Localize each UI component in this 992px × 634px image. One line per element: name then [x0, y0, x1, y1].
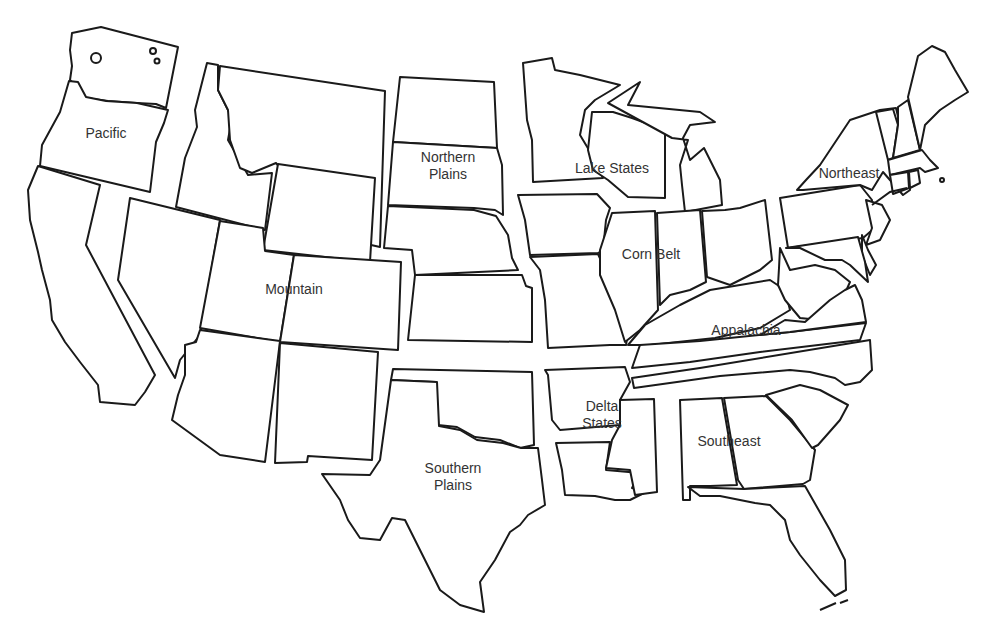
region-label-line: Mountain: [265, 281, 323, 297]
region-label-delta-states: DeltaStates: [582, 398, 622, 431]
state-me: [908, 46, 968, 150]
region-label-line: States: [582, 415, 622, 431]
region-label-corn-belt: Corn Belt: [622, 246, 680, 262]
region-label-line: Lake States: [575, 160, 649, 176]
state-co: [280, 255, 401, 350]
region-label-northeast: Northeast: [819, 165, 880, 181]
state-ks: [408, 275, 532, 342]
state-nd: [393, 77, 497, 148]
region-label-line: Southeast: [697, 433, 760, 449]
region-label-line: Northern: [421, 149, 475, 165]
state-ri: [909, 170, 920, 188]
state-ne: [384, 206, 518, 275]
region-label-line: Corn Belt: [622, 246, 680, 262]
state-wy: [263, 164, 375, 262]
region-label-southeast: Southeast: [697, 433, 760, 449]
state-nm: [275, 343, 378, 463]
region-label-appalachia: Appalachia: [711, 322, 780, 338]
state-fl: [688, 486, 846, 596]
region-label-line: Plains: [434, 477, 472, 493]
region-label-line: Pacific: [85, 125, 126, 141]
region-label-line: Southern: [425, 460, 482, 476]
region-label-line: Plains: [429, 166, 467, 182]
states-layer: [28, 27, 968, 612]
region-label-line: Appalachia: [711, 322, 780, 338]
region-label-lake-states: Lake States: [575, 160, 649, 176]
region-label-mountain: Mountain: [265, 281, 323, 297]
state-oh: [702, 200, 772, 285]
region-label-pacific: Pacific: [85, 125, 126, 141]
region-label-line: Delta: [586, 398, 619, 414]
state-az: [172, 330, 280, 462]
us-farm-regions-map: PacificMountainNorthernPlainsLake States…: [0, 0, 992, 634]
region-label-line: Northeast: [819, 165, 880, 181]
state-ia: [518, 194, 610, 255]
region-label-northern-plains: NorthernPlains: [421, 149, 475, 182]
island-florida-keys: [820, 600, 848, 610]
island-nantucket: [940, 178, 944, 182]
